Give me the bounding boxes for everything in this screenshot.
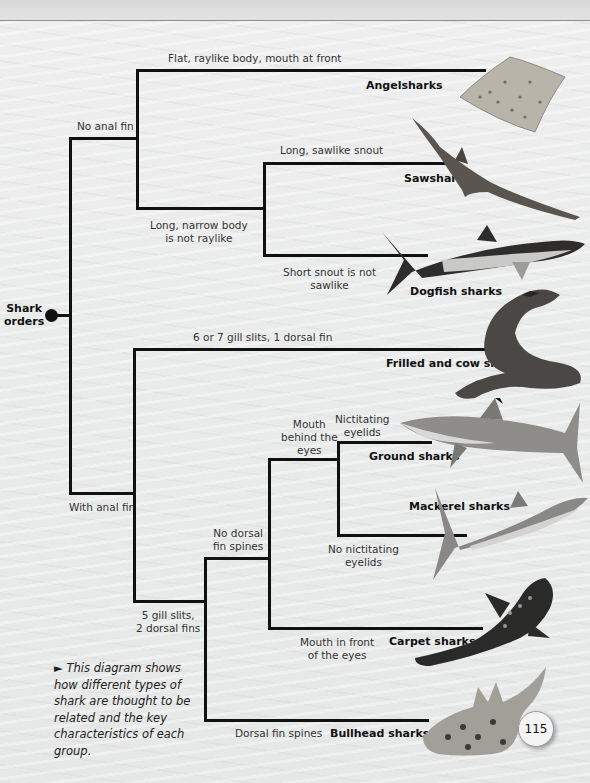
branch-frilled-line: [133, 348, 503, 351]
branch-flat-raylike-label: Flat, raylike body, mouth at front: [168, 52, 341, 65]
branch-with-anal-fin-line: [69, 492, 136, 495]
order-bullhead-sharks: Bullhead sharks: [330, 727, 429, 740]
five-gill-label-line2: 2 dorsal fins: [136, 622, 200, 635]
branch-short-snout-label: Short snout is not sawlike: [283, 266, 376, 292]
ground-shark-illustration: [395, 398, 585, 488]
mouth-behind-vertical-line: [337, 441, 340, 537]
header-rule: [0, 20, 590, 21]
branch-long-narrow-line: [136, 207, 266, 210]
no-dorsal-label-line2: fin spines: [213, 540, 263, 553]
mouth-behind-label-line2: behind the: [281, 431, 338, 444]
mouth-front-label-line1: Mouth in front: [300, 636, 374, 649]
mouth-behind-label-line3: eyes: [281, 444, 338, 457]
root-vertical-line: [69, 137, 72, 495]
long-narrow-vertical-line: [263, 162, 266, 257]
root-label-line1: Shark: [4, 302, 44, 315]
branch-mouth-behind-line: [268, 458, 340, 461]
branch-nictitating-label: Nictitating eyelids: [335, 413, 389, 439]
branch-no-dorsal-spines-line: [204, 557, 271, 560]
diagram-caption: ► This diagram shows how different types…: [54, 660, 204, 759]
branch-long-sawlike-label: Long, sawlike snout: [280, 144, 383, 157]
branch-long-narrow-label: Long, narrow body is not raylike: [150, 219, 248, 245]
carpet-shark-illustration: [410, 568, 560, 668]
nictitating-label-line1: Nictitating: [335, 413, 389, 426]
nictitating-label-line2: eyelids: [335, 426, 389, 439]
five-gill-label-line1: 5 gill slits,: [136, 609, 200, 622]
branch-no-anal-fin-line: [69, 137, 139, 140]
sawshark-illustration: [410, 112, 585, 222]
no-dorsal-label-line1: No dorsal: [213, 527, 263, 540]
caption-text: This diagram shows how different types o…: [54, 661, 190, 758]
with-anal-fin-vertical-line: [133, 348, 136, 603]
branch-mouth-behind-label: Mouth behind the eyes: [281, 418, 338, 457]
no-dorsal-vertical-line: [268, 458, 271, 630]
short-snout-label-line1: Short snout is not: [283, 266, 376, 279]
frilled-shark-illustration: [450, 283, 590, 403]
branch-six-seven-gill-label: 6 or 7 gill slits, 1 dorsal fin: [193, 331, 332, 344]
branch-no-dorsal-spines-label: No dorsal fin spines: [213, 527, 263, 553]
no-nictitating-label-line1: No nictitating: [328, 543, 399, 556]
page-header-band: [0, 0, 590, 20]
mouth-front-label-line2: of the eyes: [300, 649, 374, 662]
branch-bullhead-sharks-line: [204, 719, 429, 722]
no-anal-fin-vertical-line: [136, 69, 139, 210]
no-nictitating-label-line2: eyelids: [328, 556, 399, 569]
order-angelsharks: Angelsharks: [366, 79, 443, 92]
branch-dorsal-spines-label: Dorsal fin spines: [235, 727, 322, 740]
mouth-behind-label-line1: Mouth: [281, 418, 338, 431]
branch-angelsharks-line: [136, 69, 486, 72]
root-label: Shark orders: [4, 302, 44, 328]
branch-no-anal-fin-label: No anal fin: [77, 120, 134, 133]
caption-arrow-icon: ►: [54, 661, 63, 675]
five-gill-vertical-line: [204, 557, 207, 722]
page-number-badge: 115: [518, 711, 554, 747]
root-label-line2: orders: [4, 315, 44, 328]
long-narrow-label-line1: Long, narrow body: [150, 219, 248, 232]
branch-five-gill-line: [133, 600, 207, 603]
branch-with-anal-fin-label: With anal fin: [69, 501, 135, 514]
branch-no-nictitating-label: No nictitating eyelids: [328, 543, 399, 569]
short-snout-label-line2: sawlike: [283, 279, 376, 292]
branch-mouth-front-label: Mouth in front of the eyes: [300, 636, 374, 662]
long-narrow-label-line2: is not raylike: [150, 232, 248, 245]
branch-five-gill-label: 5 gill slits, 2 dorsal fins: [136, 609, 200, 635]
